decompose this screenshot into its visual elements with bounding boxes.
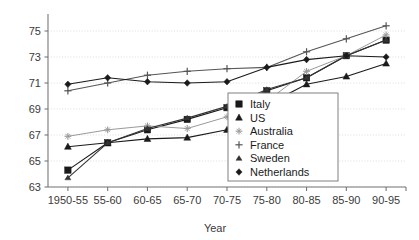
life-expectancy-line-chart: 63656769717375 1950-5555-6060-6565-7070-…: [0, 0, 419, 240]
y-tick-label: 69: [29, 103, 41, 115]
data-point-marker: [104, 126, 111, 133]
x-tick-label: 1950-55: [48, 194, 88, 206]
data-point-marker: [144, 72, 151, 79]
y-tick-label: 73: [29, 51, 41, 63]
series-australia: [64, 32, 389, 140]
data-point-marker: [223, 65, 230, 72]
data-point-marker: [383, 22, 390, 29]
legend-marker-australia: [236, 128, 243, 135]
x-tick-label: 85-90: [332, 194, 360, 206]
legend-label-australia: Australia: [250, 125, 294, 137]
x-axis-title: Year: [204, 222, 227, 234]
y-tick-label: 63: [29, 181, 41, 193]
axes-group: [45, 14, 407, 191]
data-point-marker: [144, 78, 150, 85]
data-point-marker: [64, 133, 71, 140]
x-tick-labels: 1950-5555-6060-6565-7070-7575-8080-8585-…: [48, 194, 400, 206]
y-tick-label: 71: [29, 77, 41, 89]
legend-label-netherlands: Netherlands: [250, 166, 310, 178]
x-tick-label: 90-95: [372, 194, 400, 206]
data-point-marker: [303, 68, 310, 75]
y-tick-label: 75: [29, 25, 41, 37]
data-point-marker: [65, 167, 71, 173]
data-point-marker: [105, 75, 111, 82]
data-point-marker: [236, 128, 243, 135]
legend-marker-italy: [236, 101, 242, 107]
data-point-marker: [236, 101, 242, 107]
chart-legend: ItalyUSAustraliaFranceSwedenNetherlands: [228, 93, 338, 181]
data-point-marker: [184, 80, 190, 87]
x-tick-label: 60-65: [133, 194, 161, 206]
y-tick-labels: 63656769717375: [29, 25, 41, 193]
x-tick-label: 55-60: [94, 194, 122, 206]
data-point-marker: [64, 87, 71, 94]
data-point-marker: [383, 54, 389, 61]
x-tick-label: 75-80: [253, 194, 281, 206]
data-point-marker: [184, 125, 191, 132]
legend-label-us: US: [250, 112, 265, 124]
data-point-marker: [224, 78, 230, 85]
data-point-marker: [65, 81, 71, 88]
legend-label-france: France: [250, 139, 284, 151]
data-point-marker: [303, 48, 310, 55]
data-point-marker: [383, 60, 390, 66]
x-tick-label: 70-75: [213, 194, 241, 206]
y-tick-label: 67: [29, 129, 41, 141]
legend-label-italy: Italy: [250, 98, 271, 110]
x-tick-label: 65-70: [173, 194, 201, 206]
legend-label-sweden: Sweden: [250, 152, 290, 164]
chart-canvas: 63656769717375 1950-5555-6060-6565-7070-…: [0, 0, 419, 240]
series-sweden: [65, 37, 389, 180]
x-tick-label: 80-85: [292, 194, 320, 206]
y-tick-label: 65: [29, 155, 41, 167]
data-series-group: [64, 22, 389, 180]
data-point-marker: [343, 35, 350, 42]
data-point-marker: [264, 64, 270, 71]
data-point-marker: [184, 68, 191, 75]
